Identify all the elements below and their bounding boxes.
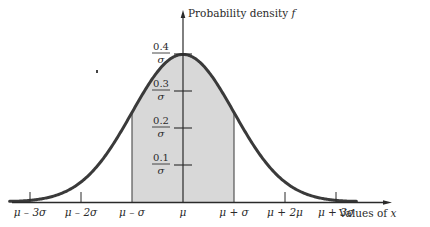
svg-text:σ: σ [158, 128, 166, 139]
svg-text:0.3: 0.3 [153, 78, 169, 89]
x-tick-label: μ + σ [219, 206, 249, 218]
x-tick-label: μ – 3σ [14, 206, 47, 218]
svg-text:σ: σ [158, 91, 166, 102]
print-speck [96, 70, 98, 73]
svg-text:0.1: 0.1 [153, 152, 169, 163]
svg-text:0.2: 0.2 [153, 115, 169, 126]
y-axis-title: Probability density f [188, 7, 298, 19]
x-tick-label: μ [180, 206, 187, 218]
x-axis-title: Values of x [338, 207, 397, 219]
x-tick-label: μ – σ [119, 206, 146, 218]
svg-text:σ: σ [158, 54, 166, 65]
normal-distribution-chart: 0.1σ0.2σ0.3σ0.4σ μ – 3σμ – 2σμ – σμμ + σ… [0, 0, 430, 227]
x-tick-label: μ – 2σ [65, 206, 98, 218]
x-tick-label: μ + 2μ [267, 206, 303, 218]
svg-text:0.4: 0.4 [153, 41, 169, 52]
svg-text:σ: σ [158, 165, 166, 176]
